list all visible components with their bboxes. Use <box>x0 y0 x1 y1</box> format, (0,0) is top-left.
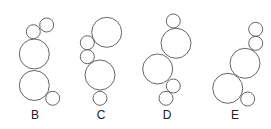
option-label: E <box>231 108 239 122</box>
small-circle <box>40 18 54 32</box>
large-circle <box>213 73 243 103</box>
option-label: B <box>31 108 39 122</box>
option-label: D <box>163 108 172 122</box>
figure-canvas: BCDE <box>0 0 271 129</box>
large-circle <box>143 54 173 84</box>
small-circle <box>26 25 40 39</box>
small-circle <box>93 91 107 105</box>
large-circle <box>161 28 191 58</box>
large-circle <box>230 48 260 78</box>
small-circle <box>241 92 255 106</box>
option-label: C <box>97 108 106 122</box>
option-d: D <box>143 14 191 122</box>
small-circle <box>159 91 173 105</box>
large-circle <box>92 17 122 47</box>
small-circle <box>80 36 94 50</box>
circle-arrangement-figure: BCDE <box>0 0 271 129</box>
small-circle <box>166 79 180 93</box>
small-circle <box>80 50 94 64</box>
option-c: C <box>80 17 121 122</box>
option-e: E <box>213 22 263 122</box>
small-circle <box>46 91 60 105</box>
large-circle <box>19 39 49 69</box>
large-circle <box>85 60 115 90</box>
small-circle <box>249 36 263 50</box>
small-circle <box>249 22 263 36</box>
option-b: B <box>19 18 59 122</box>
large-circle <box>19 71 49 101</box>
small-circle <box>166 14 180 28</box>
